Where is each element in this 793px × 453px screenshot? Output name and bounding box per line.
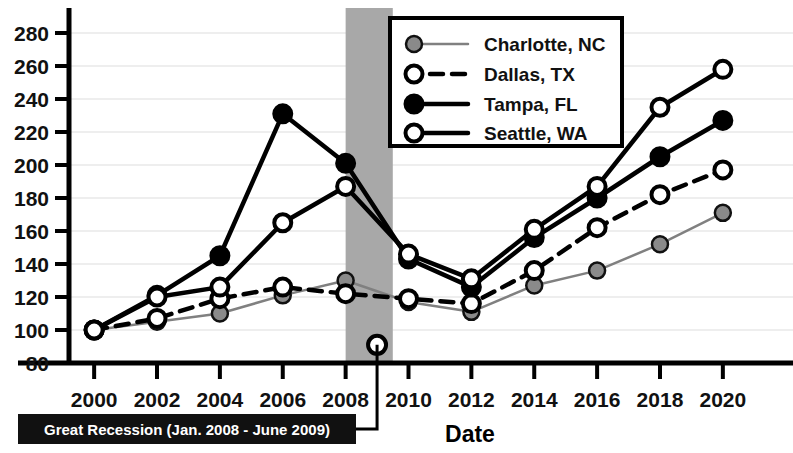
data-point xyxy=(652,236,668,252)
y-axis-tick-labels: 80100120140160180200220240260280 xyxy=(14,22,49,375)
legend-marker-swatch xyxy=(406,36,422,52)
y-tick-label-100: 100 xyxy=(14,319,49,342)
y-tick-label-200: 200 xyxy=(14,154,49,177)
x-tick-label-2016: 2016 xyxy=(574,388,621,411)
annotation-label-text: Great Recession (Jan. 2008 - June 2009) xyxy=(44,421,330,438)
data-point xyxy=(400,290,417,307)
x-tick-label-2002: 2002 xyxy=(134,388,181,411)
data-point xyxy=(715,205,731,221)
y-tick-label-220: 220 xyxy=(14,121,49,144)
data-point xyxy=(651,186,668,203)
data-point xyxy=(526,262,543,279)
data-point xyxy=(589,263,605,279)
data-point xyxy=(273,104,292,123)
data-point xyxy=(714,61,731,78)
legend-marker-swatch xyxy=(405,95,424,114)
x-axis-title: Date xyxy=(445,421,495,447)
x-tick-label-2000: 2000 xyxy=(71,388,118,411)
x-tick-label-2010: 2010 xyxy=(385,388,432,411)
legend-item-label: Seattle, WA xyxy=(484,123,588,144)
data-point xyxy=(274,279,291,296)
data-point xyxy=(713,111,732,130)
legend-item-label: Charlotte, NC xyxy=(484,34,606,55)
x-tick-label-2018: 2018 xyxy=(637,388,684,411)
data-point xyxy=(526,221,543,238)
data-point xyxy=(274,214,291,231)
data-point xyxy=(714,161,731,178)
y-tick-label-260: 260 xyxy=(14,55,49,78)
x-tick-label-2008: 2008 xyxy=(322,388,369,411)
house-price-index-line-chart: 80100120140160180200220240260280 2000200… xyxy=(0,0,793,453)
y-tick-label-280: 280 xyxy=(14,22,49,45)
data-point xyxy=(589,219,606,236)
x-tick-label-2014: 2014 xyxy=(511,388,558,411)
x-axis-title-text: Date xyxy=(445,421,495,447)
data-point xyxy=(400,246,417,263)
data-point xyxy=(86,322,103,339)
x-tick-label-2012: 2012 xyxy=(448,388,495,411)
chart-legend: Charlotte, NCDallas, TXTampa, FLSeattle,… xyxy=(390,18,622,146)
x-tick-label-2006: 2006 xyxy=(259,388,306,411)
data-point xyxy=(149,310,166,327)
y-tick-label-140: 140 xyxy=(14,253,49,276)
data-point xyxy=(589,178,606,195)
legend-item-label: Tampa, FL xyxy=(484,94,578,115)
legend-marker-swatch xyxy=(406,125,423,142)
x-axis-tick-labels: 2000200220042006200820102012201420162018… xyxy=(71,388,746,411)
data-point xyxy=(210,246,229,265)
data-point xyxy=(650,147,669,166)
data-point xyxy=(651,99,668,116)
data-point xyxy=(337,285,354,302)
legend-marker-swatch xyxy=(406,66,423,83)
x-tick-label-2004: 2004 xyxy=(197,388,244,411)
y-tick-label-240: 240 xyxy=(14,88,49,111)
data-point xyxy=(149,289,166,306)
data-point xyxy=(211,279,228,296)
legend-item-label: Dallas, TX xyxy=(484,64,575,85)
x-tick-label-2020: 2020 xyxy=(699,388,746,411)
data-point xyxy=(463,295,480,312)
y-tick-label-180: 180 xyxy=(14,187,49,210)
chart-container: 80100120140160180200220240260280 2000200… xyxy=(0,0,793,453)
y-tick-label-80: 80 xyxy=(26,352,49,375)
data-point xyxy=(337,178,354,195)
data-point xyxy=(336,154,355,173)
y-tick-label-160: 160 xyxy=(14,220,49,243)
y-tick-label-120: 120 xyxy=(14,286,49,309)
data-point xyxy=(463,270,480,287)
